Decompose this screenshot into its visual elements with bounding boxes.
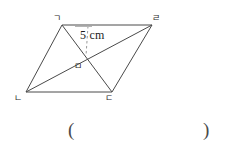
vertex-label-c: ㄷ	[105, 94, 113, 103]
vertex-label-b: ㄴ	[14, 94, 22, 103]
answer-close-paren: )	[203, 120, 209, 139]
answer-open-paren: (	[68, 120, 74, 139]
vertex-label-a: ㄱ	[53, 14, 61, 23]
vertex-label-d: ㄹ	[152, 14, 160, 23]
figure-canvas: ㄱ ㄹ ㄷ ㄴ ㅁ 5 cm ( )	[0, 0, 238, 148]
side-right	[112, 25, 152, 92]
vertex-label-m: ㅁ	[74, 62, 82, 71]
height-measurement-label: 5 cm	[80, 29, 104, 41]
